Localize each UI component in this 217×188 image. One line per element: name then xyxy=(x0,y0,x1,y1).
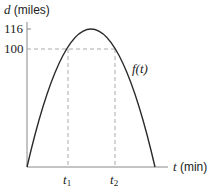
y-axis-label: d (miles) xyxy=(4,2,50,17)
x-tick-label-t2: t2 xyxy=(110,172,118,188)
y-tick-label-116: 116 xyxy=(4,21,24,36)
y-tick-label-100: 100 xyxy=(4,41,24,56)
curve-label: f(t) xyxy=(132,61,148,76)
x-tick-label-t1: t1 xyxy=(63,172,71,188)
x-axis-label: t (min) xyxy=(173,159,207,174)
distance-time-chart: d (miles) 116 100 f(t) t1 t2 t (min) xyxy=(0,0,217,188)
curve-f-of-t xyxy=(27,29,155,167)
